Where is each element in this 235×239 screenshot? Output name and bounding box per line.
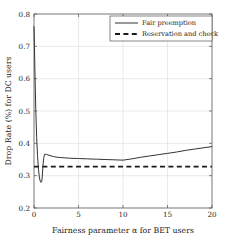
y-axis-title: Drop Rate (%) for DC users (4, 57, 13, 166)
legend-label: Fair preemption (142, 19, 197, 27)
line-chart: 0.20.30.40.50.60.70.805101520 Fair preem… (0, 0, 235, 239)
x-tick-label: 20 (207, 210, 217, 219)
y-tick-label: 0.8 (19, 10, 31, 19)
legend-box: Fair preemptionReservation and check (110, 16, 219, 41)
chart-figure: 0.20.30.40.50.60.70.805101520 Fair preem… (0, 0, 235, 239)
x-tick-label: 10 (118, 210, 128, 219)
x-tick-label: 0 (32, 210, 37, 219)
legend-label: Reservation and check (142, 30, 219, 38)
y-tick-label: 0.3 (19, 171, 31, 180)
y-tick-label: 0.7 (19, 42, 31, 51)
y-tick-label: 0.4 (19, 139, 31, 148)
x-tick-label: 15 (163, 210, 173, 219)
x-axis-title: Fairness parameter α for BET users (52, 226, 194, 235)
y-tick-label: 0.5 (19, 107, 31, 116)
y-tick-label: 0.6 (19, 74, 31, 83)
x-tick-label: 5 (76, 210, 81, 219)
y-tick-label: 0.2 (19, 204, 30, 213)
